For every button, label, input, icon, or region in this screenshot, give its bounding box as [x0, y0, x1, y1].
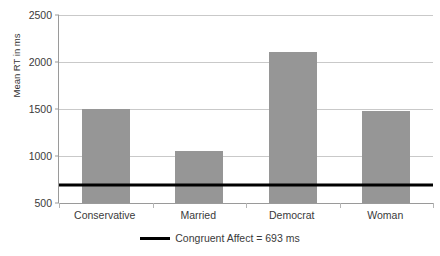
bar-woman [362, 111, 410, 203]
x-tick-label-woman: Woman [339, 209, 433, 221]
y-tick-label-2000: 2000 [29, 56, 52, 68]
gridline-2000 [59, 62, 433, 63]
bar-chart: Mean RT in ms 5001000150020002500 Conser… [0, 0, 440, 256]
x-tick-mark-1 [153, 203, 154, 208]
y-tick-label-500: 500 [34, 197, 52, 209]
y-tick-label-1000: 1000 [29, 150, 52, 162]
congruent-affect-reference-line [59, 183, 433, 186]
x-tick-label-conservative: Conservative [58, 209, 152, 221]
y-axis-title: Mean RT in ms [11, 6, 22, 126]
legend-entry-label: Congruent Affect = 693 ms [175, 232, 299, 244]
x-tick-label-married: Married [152, 209, 246, 221]
x-tick-mark-end [433, 203, 434, 208]
x-tick-mark-2 [246, 203, 247, 208]
gridline-2500 [59, 15, 433, 16]
bar-conservative [82, 109, 130, 203]
bar-democrat [269, 52, 317, 203]
y-tick-label-1500: 1500 [29, 103, 52, 115]
y-tick-mark-2000 [55, 62, 59, 63]
x-tick-mark-0 [59, 203, 60, 208]
chart-legend: Congruent Affect = 693 ms [0, 232, 440, 244]
y-tick-mark-1000 [55, 156, 59, 157]
bar-married [175, 151, 223, 203]
reference-line-swatch [140, 237, 170, 240]
y-tick-mark-1500 [55, 109, 59, 110]
plot-area: 5001000150020002500 [58, 15, 433, 203]
y-tick-mark-2500 [55, 15, 59, 16]
x-tick-mark-3 [340, 203, 341, 208]
y-tick-label-2500: 2500 [29, 9, 52, 21]
x-tick-label-democrat: Democrat [245, 209, 339, 221]
